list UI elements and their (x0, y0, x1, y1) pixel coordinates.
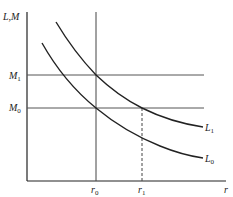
m0-label: M0 (8, 102, 21, 115)
diagram-canvas: L,M M1 M0 r0 r1 r L1 L0 (0, 0, 233, 197)
y-axis-label: L,M (2, 11, 20, 22)
r1-label: r1 (138, 184, 146, 197)
l0-label: L0 (204, 153, 215, 166)
l1-label: L1 (204, 122, 215, 135)
r0-label: r0 (91, 184, 99, 197)
x-axis-label: r (224, 184, 228, 195)
l0-curve (42, 43, 203, 158)
m1-label: M1 (8, 70, 21, 83)
